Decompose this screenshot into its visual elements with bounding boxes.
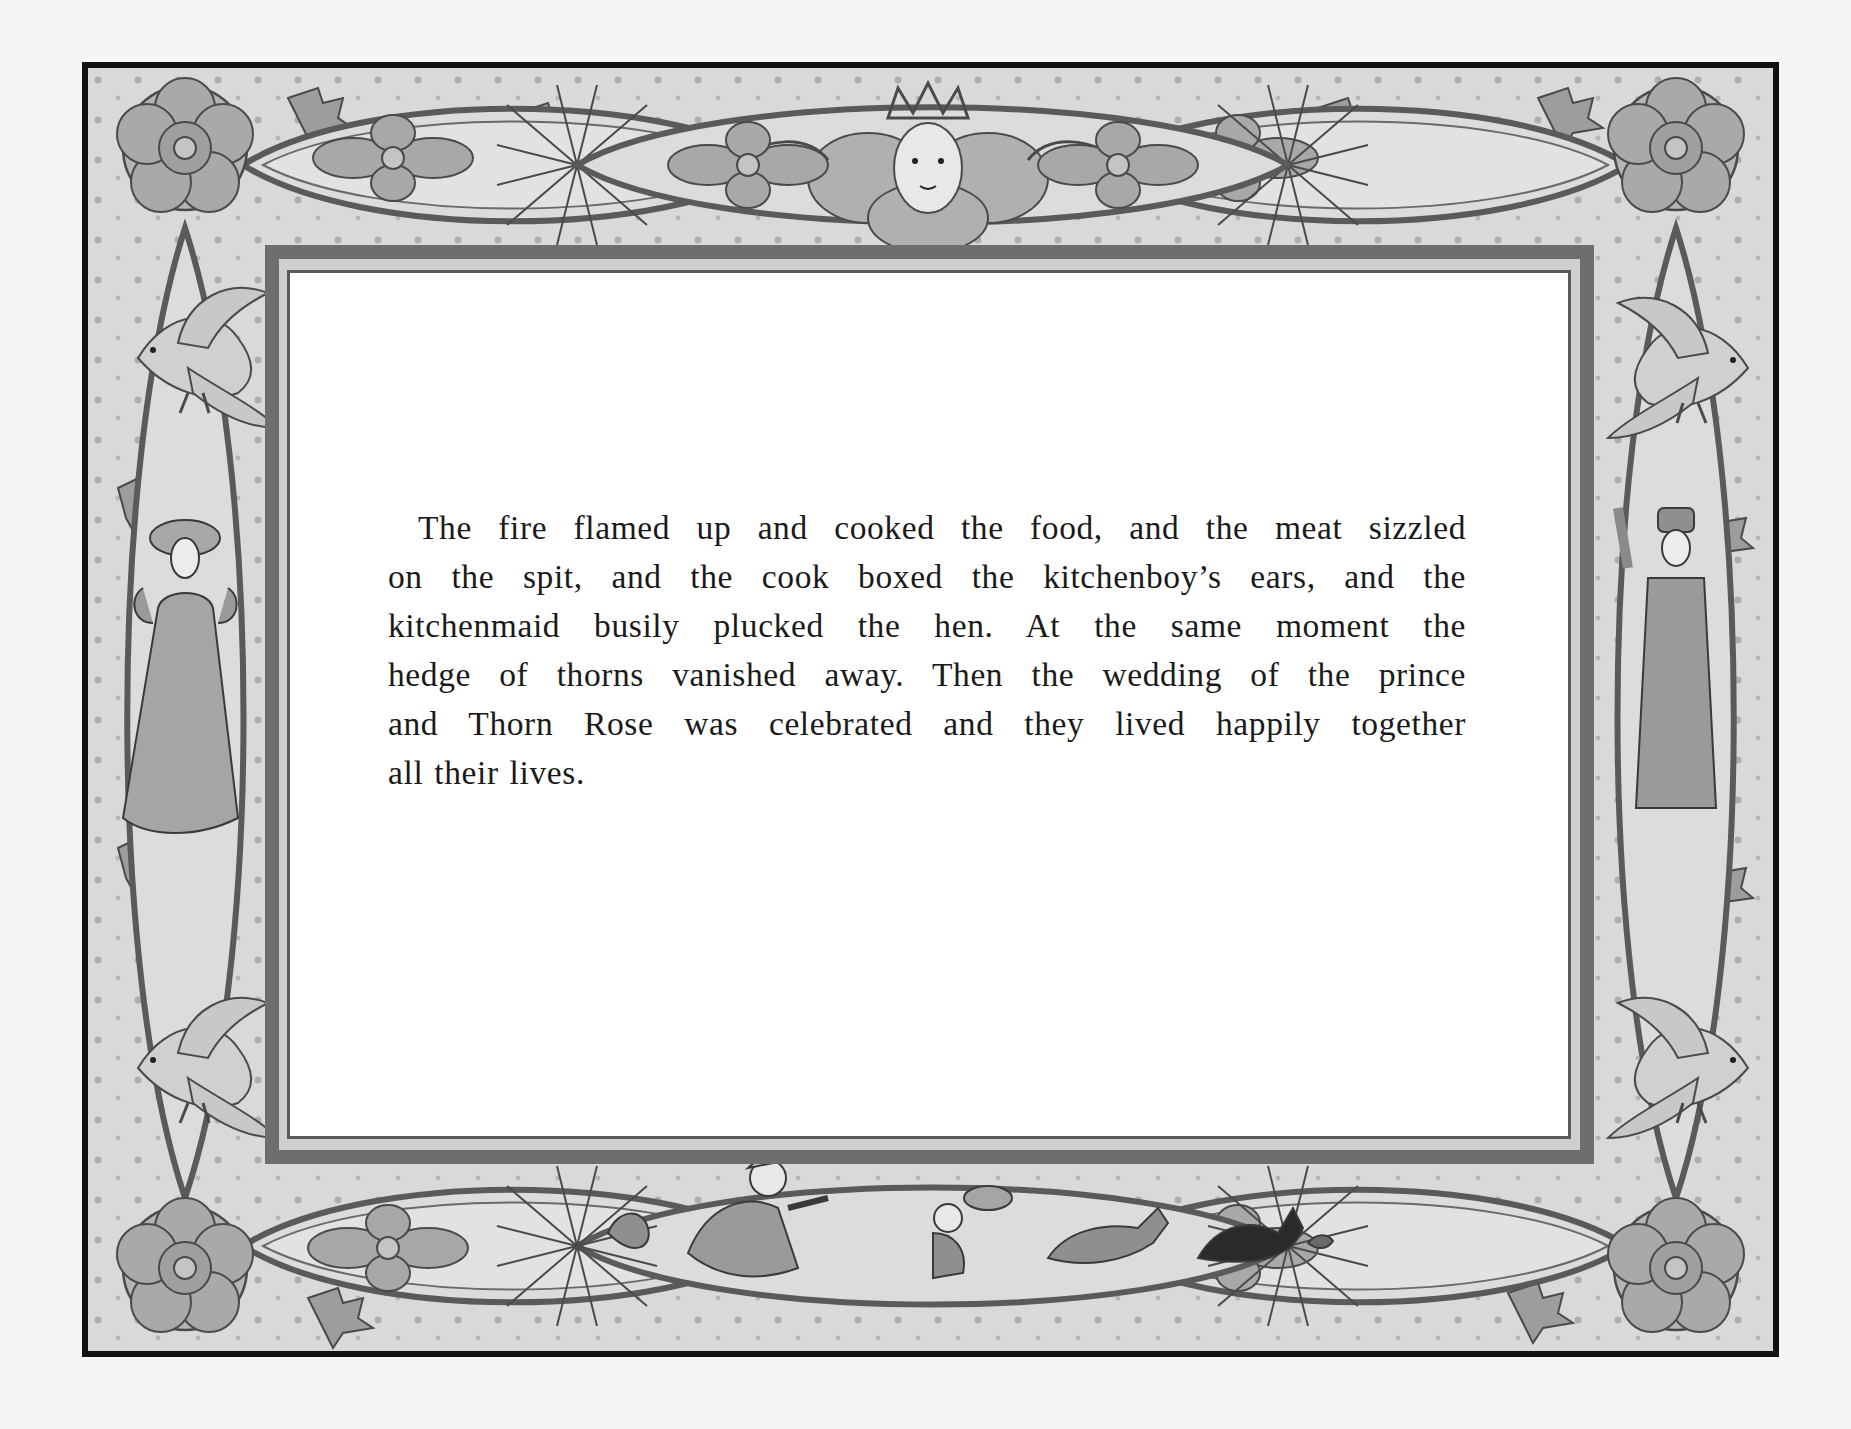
story-line: kitchenmaid busily plucked the hen. At t… (388, 601, 1466, 650)
story-line: hedge of thorns vanished away. Then the … (388, 650, 1466, 699)
story-text: The fire flamed up and cooked the food, … (388, 503, 1466, 797)
story-line: The fire flamed up and cooked the food, … (388, 503, 1466, 552)
story-line: all their lives. (388, 748, 1466, 797)
book-page: The fire flamed up and cooked the food, … (0, 0, 1851, 1429)
story-line: and Thorn Rose was celebrated and they l… (388, 699, 1466, 748)
story-line: on the spit, and the cook boxed the kitc… (388, 552, 1466, 601)
